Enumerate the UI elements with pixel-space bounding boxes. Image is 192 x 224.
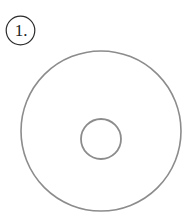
disc-outer-circle: [21, 51, 181, 211]
worksheet-page: 1.: [0, 0, 192, 224]
disc-inner-hole-circle: [81, 119, 121, 159]
disc-figure: [0, 0, 192, 224]
